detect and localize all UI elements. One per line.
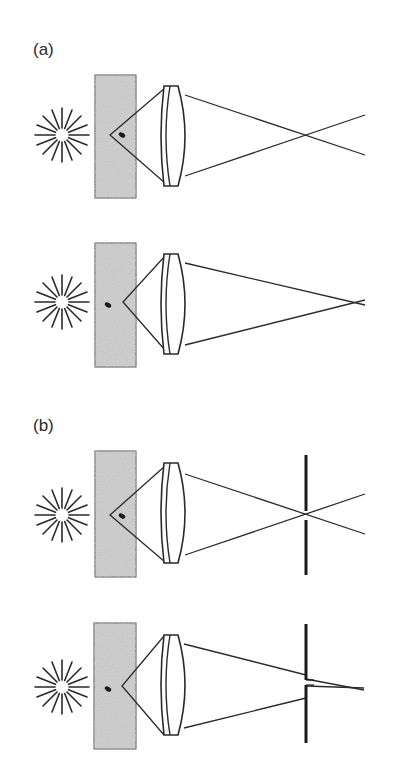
lens-icon bbox=[161, 463, 185, 563]
light-source-icon bbox=[35, 108, 89, 162]
panel-label-b: (b) bbox=[33, 416, 54, 436]
lens-icon bbox=[161, 635, 185, 735]
diagram-b-top bbox=[35, 451, 365, 577]
sample-block bbox=[94, 623, 136, 749]
rays bbox=[110, 88, 365, 183]
diagram-a-top bbox=[35, 75, 365, 198]
diagram-b-bottom bbox=[35, 623, 364, 749]
diagram-canvas bbox=[0, 0, 393, 780]
rays bbox=[110, 466, 365, 562]
light-source-icon bbox=[35, 488, 89, 542]
rays bbox=[123, 256, 365, 350]
lens-icon bbox=[161, 254, 185, 354]
light-source-icon bbox=[35, 660, 89, 714]
sample-block bbox=[95, 243, 136, 367]
lens-icon bbox=[161, 86, 185, 186]
rays bbox=[122, 636, 364, 735]
light-source-icon bbox=[35, 275, 89, 329]
diagram-a-bottom bbox=[35, 243, 365, 367]
sample-block bbox=[95, 451, 136, 577]
sample-block bbox=[95, 75, 136, 198]
panel-label-a: (a) bbox=[33, 40, 54, 60]
